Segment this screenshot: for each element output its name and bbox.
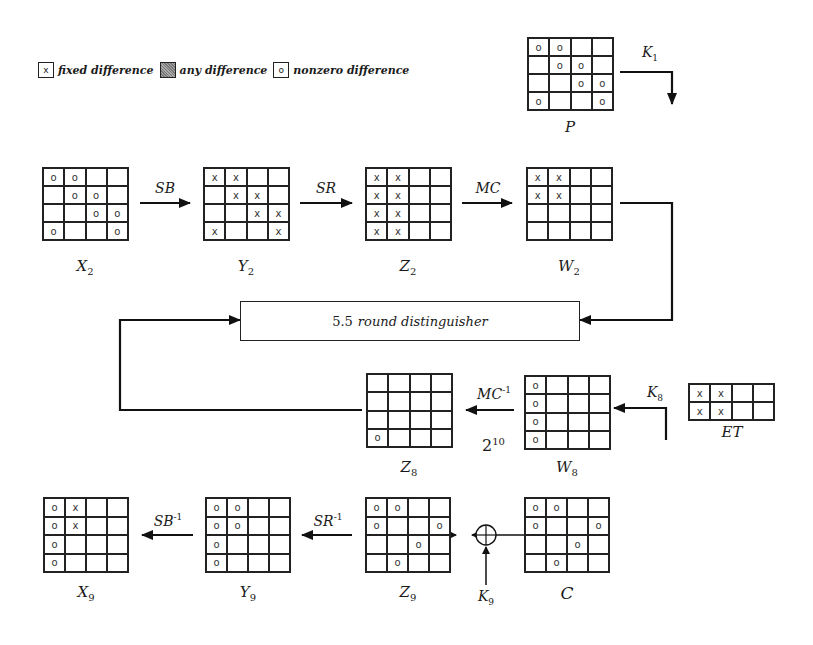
grid-cell: o xyxy=(107,204,128,222)
grid-cell xyxy=(430,204,451,222)
grid-cell xyxy=(591,186,612,204)
label-W2: W2 xyxy=(529,257,609,277)
grid-cell: o xyxy=(227,517,248,536)
label-X2: X2 xyxy=(45,257,125,277)
grid-cell: x xyxy=(366,186,387,204)
grid-cell xyxy=(408,554,429,573)
grid-cell xyxy=(527,204,548,222)
grid-cell xyxy=(269,517,290,536)
grid-cell: o xyxy=(44,554,65,573)
grid-cell xyxy=(64,222,85,240)
grid-cell xyxy=(588,554,609,573)
grid-cell xyxy=(410,429,431,447)
distinguisher-box: 5.5 round distinguisher xyxy=(240,301,580,341)
grid-cell: x xyxy=(387,168,408,186)
grid-cell: x xyxy=(387,186,408,204)
grid-cell xyxy=(248,517,269,536)
grid-cell: x xyxy=(225,186,246,204)
grid-cell xyxy=(567,517,588,536)
grid-cell xyxy=(430,168,451,186)
grid-cell xyxy=(269,554,290,573)
grid-cell xyxy=(387,517,408,536)
grid-cell xyxy=(753,402,774,420)
grid-cell xyxy=(549,92,570,110)
label-Z2: Z2 xyxy=(368,257,448,277)
grid-cell xyxy=(268,186,289,204)
state-W2: xxxx xyxy=(526,167,613,241)
grid-cell xyxy=(527,222,548,240)
grid-cell xyxy=(429,498,450,517)
grid-cell xyxy=(247,222,268,240)
grid-cell xyxy=(107,517,128,536)
grid-cell xyxy=(592,56,613,74)
grid-cell: x xyxy=(366,204,387,222)
grid-cell: o xyxy=(525,413,546,431)
grid-cell xyxy=(269,535,290,554)
grid-cell xyxy=(408,498,429,517)
grid-cell xyxy=(388,429,409,447)
grid-cell: o xyxy=(549,56,570,74)
grid-cell: o xyxy=(43,222,64,240)
grid-cell: x xyxy=(689,384,710,402)
grid-cell xyxy=(548,222,569,240)
label-C: C xyxy=(527,583,607,603)
grid-cell xyxy=(388,411,409,429)
grid-cell xyxy=(591,204,612,222)
grid-cell: o xyxy=(528,92,549,110)
label-P: P xyxy=(530,118,610,136)
complexity-label: 210 xyxy=(482,436,505,455)
grid-cell: x xyxy=(548,186,569,204)
grid-cell xyxy=(568,413,589,431)
grid-cell xyxy=(43,186,64,204)
grid-cell: o xyxy=(525,498,546,517)
grid-cell xyxy=(227,554,248,573)
grid-cell: o xyxy=(592,92,613,110)
grid-cell: o xyxy=(567,535,588,554)
label-ET: ET xyxy=(692,423,772,441)
key-label-k9: K9 xyxy=(461,588,511,607)
grid-cell xyxy=(431,429,452,447)
grid-cell xyxy=(86,554,107,573)
grid-cell: x xyxy=(366,168,387,186)
grid-cell xyxy=(107,498,128,517)
grid-cell xyxy=(431,392,452,410)
state-X9: oxoxoo xyxy=(43,497,129,573)
grid-cell xyxy=(227,535,248,554)
grid-cell xyxy=(430,222,451,240)
grid-cell xyxy=(86,168,107,186)
grid-cell xyxy=(548,204,569,222)
grid-cell: x xyxy=(204,222,225,240)
distinguisher-text: round distinguisher xyxy=(358,314,488,329)
distinguisher-rounds: 5.5 xyxy=(332,314,353,329)
grid-cell xyxy=(546,376,567,394)
grid-cell xyxy=(65,535,86,554)
grid-cell: o xyxy=(571,56,592,74)
grid-cell xyxy=(546,413,567,431)
grid-cell xyxy=(43,204,64,222)
grid-cell xyxy=(366,554,387,573)
grid-cell xyxy=(546,517,567,536)
grid-cell: o xyxy=(206,498,227,517)
grid-cell xyxy=(410,374,431,392)
op-label-sb: SB xyxy=(130,180,200,196)
grid-cell xyxy=(388,392,409,410)
grid-cell xyxy=(64,204,85,222)
state-W8: oooo xyxy=(524,375,611,450)
grid-cell: o xyxy=(387,554,408,573)
grid-cell xyxy=(410,392,431,410)
grid-cell xyxy=(366,535,387,554)
grid-cell xyxy=(588,498,609,517)
grid-cell xyxy=(546,431,567,449)
grid-cell: x xyxy=(710,384,731,402)
grid-cell: x xyxy=(225,168,246,186)
grid-cell xyxy=(525,535,546,554)
grid-cell: o xyxy=(528,38,549,56)
grid-cell xyxy=(592,38,613,56)
op-label-sr-inv: SR-1 xyxy=(293,512,363,529)
grid-cell xyxy=(247,168,268,186)
grid-cell: o xyxy=(206,517,227,536)
grid-cell xyxy=(431,411,452,429)
grid-cell xyxy=(732,402,753,420)
grid-cell: o xyxy=(64,186,85,204)
grid-cell xyxy=(571,38,592,56)
